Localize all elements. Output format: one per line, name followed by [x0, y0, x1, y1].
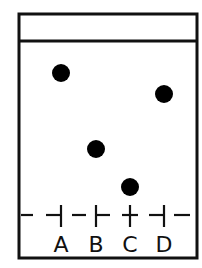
spots [52, 64, 173, 196]
spot-a [52, 64, 70, 82]
spot-d [155, 85, 173, 103]
lane-label-d: D [156, 232, 173, 257]
lane-label-c: C [122, 232, 137, 257]
plate-outline [19, 14, 197, 258]
chromatography-diagram: A B C D [0, 0, 202, 268]
lane-label-b: B [88, 232, 103, 257]
diagram-canvas: A B C D [0, 0, 202, 268]
lane-label-a: A [53, 232, 68, 257]
spot-b [87, 140, 105, 158]
spot-c [121, 178, 139, 196]
